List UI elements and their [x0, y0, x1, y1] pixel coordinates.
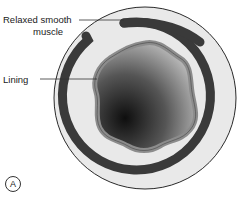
smooth-muscle-diagram: Relaxed smooth muscle Lining A: [0, 0, 240, 201]
muscle-label-line2: muscle: [33, 26, 63, 37]
muscle-label-line1: Relaxed smooth: [3, 14, 72, 25]
panel-letter-badge: A: [5, 176, 21, 192]
lining-layer: [95, 43, 196, 151]
lining-label: Lining: [3, 74, 28, 85]
